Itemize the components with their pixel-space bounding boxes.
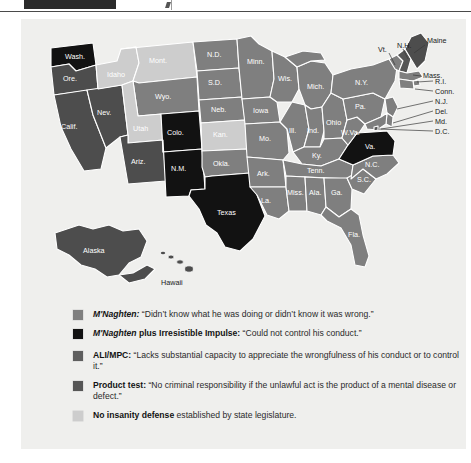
label-okla: Okla. — [213, 159, 230, 168]
label-nm: N.M. — [171, 164, 186, 173]
legend-term-mnaghten: M'Naghten: — [93, 309, 139, 319]
legend-label-product-test: Product test: “No criminal responsibilit… — [93, 380, 466, 401]
legend-item-product-test[interactable]: Product test: “No criminal responsibilit… — [73, 380, 466, 401]
legend-desc-mnaghten: “Didn’t know what he was doing or didn’t… — [142, 309, 374, 319]
label-nc: N.C. — [365, 160, 379, 169]
state-dc[interactable] — [374, 126, 378, 131]
legend-swatch-mnaghten — [73, 310, 83, 320]
label-iowa: Iowa — [253, 106, 268, 115]
state-conn[interactable] — [399, 79, 414, 89]
label-nh: N.H. — [397, 41, 411, 50]
label-dc: D.C. — [435, 127, 449, 136]
label-va: Va. — [365, 142, 375, 151]
legend-item-mnaghten[interactable]: M'Naghten: “Didn’t know what he was doin… — [73, 309, 374, 320]
label-ny: N.Y. — [355, 78, 368, 87]
label-vt: Vt. — [378, 45, 387, 54]
label-fla: Fla. — [348, 230, 360, 239]
label-texas: Texas — [217, 208, 236, 217]
label-ky: Ky. — [312, 151, 322, 160]
legend-label-no-defense: No insanity defense established by state… — [93, 410, 296, 421]
legend-desc-ali-mpc: “Lacks substantial capacity to appreciat… — [93, 350, 459, 371]
label-mo: Mo. — [259, 134, 271, 143]
page-header-strip — [0, 0, 471, 14]
label-nev: Nev. — [97, 108, 111, 117]
header-horizontal-rule — [0, 11, 471, 12]
label-sd: S.D. — [208, 78, 222, 87]
label-wyo: Wyo. — [155, 92, 171, 101]
label-ill: Ill. — [289, 126, 296, 135]
legend-item-mnaghten-plus[interactable]: M'Naghten plus Irresistible Impulse: “Co… — [73, 328, 362, 339]
header-white-tab — [116, 0, 172, 10]
label-mich: Mich. — [307, 82, 324, 91]
label-conn: Conn. — [435, 87, 454, 96]
legend-term-mnaghten-plus: M'Naghten — [93, 328, 137, 338]
label-ariz: Ariz. — [131, 157, 145, 166]
label-calif: Calif. — [61, 122, 77, 131]
legend-item-ali-mpc[interactable]: ALI/MPC: “Lacks substantial capacity to … — [73, 350, 466, 371]
legend-item-no-defense[interactable]: No insanity defense established by state… — [73, 410, 296, 421]
label-mont: Mont. — [149, 56, 167, 65]
us-map: .st{stroke:#ffffff;stroke-width:1.1;stro… — [21, 19, 466, 299]
legend-swatch-product-test — [73, 381, 83, 391]
legend-term-no-defense: No insanity defense — [93, 410, 174, 420]
legend-label-mnaghten-plus: M'Naghten plus Irresistible Impulse: “Co… — [93, 328, 362, 339]
label-tenn: Tenn. — [307, 166, 325, 175]
label-alaska: Alaska — [83, 246, 105, 255]
label-kan: Kan. — [213, 130, 228, 139]
label-ga: Ga. — [331, 188, 343, 197]
header-black-tab — [24, 0, 116, 9]
label-pa: Pa. — [355, 102, 366, 111]
label-sc: S.C. — [357, 175, 371, 184]
label-wash: Wash. — [65, 52, 85, 61]
legend-label-mnaghten: M'Naghten: “Didn’t know what he was doin… — [93, 309, 374, 320]
label-hawaii: Hawaii — [161, 278, 183, 287]
legend-term-ali-mpc: ALI/MPC: — [93, 350, 131, 360]
label-miss: Miss. — [287, 188, 304, 197]
label-wis: Wis. — [278, 74, 292, 83]
label-idaho: Idaho — [107, 70, 125, 79]
legend-term-product-test: Product test: — [93, 380, 146, 390]
label-ind: Ind. — [307, 126, 319, 135]
label-minn: Minn. — [247, 57, 265, 66]
label-del: Del. — [435, 107, 448, 116]
legend-swatch-no-defense — [73, 411, 83, 421]
legend-label-ali-mpc: ALI/MPC: “Lacks substantial capacity to … — [93, 350, 466, 371]
legend-swatch-ali-mpc — [73, 351, 83, 361]
label-ark: Ark. — [257, 169, 270, 178]
label-la: La. — [261, 196, 271, 205]
label-nj: N.J. — [435, 97, 448, 106]
label-ore: Ore. — [63, 74, 77, 83]
label-md: Md. — [435, 117, 447, 126]
map-legend: M'Naghten: “Didn’t know what he was doin… — [21, 300, 466, 435]
legend-desc-mnaghten-plus: “Could not control his conduct.” — [243, 328, 362, 338]
legend-term-suffix-mnaghten-plus: plus Irresistible Impulse: — [139, 328, 240, 338]
legend-desc-no-defense: established by state legislature. — [177, 410, 297, 420]
label-wva: W.Va. — [341, 128, 360, 137]
label-ohio: Ohio — [326, 118, 341, 127]
label-utah: Utah — [133, 124, 148, 133]
label-nd: N.D. — [207, 50, 221, 59]
legend-desc-product-test: “No criminal responsibility if the unlaw… — [93, 380, 456, 401]
label-neb: Neb. — [211, 105, 226, 114]
label-ri: R.I. — [435, 77, 446, 86]
legend-swatch-mnaghten-plus — [73, 329, 83, 339]
label-ala: Ala. — [309, 188, 321, 197]
label-colo: Colo. — [167, 128, 184, 137]
label-maine: Maine — [427, 36, 447, 45]
